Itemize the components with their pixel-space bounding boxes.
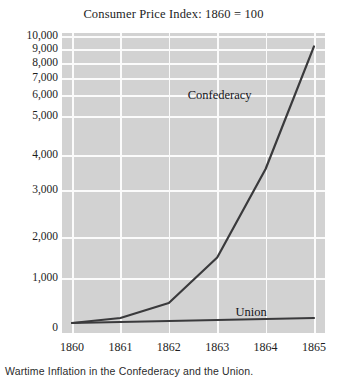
x-tick-label: 1865 (302, 341, 326, 353)
y-tick-label: 1,000 (32, 272, 58, 284)
series-annotations: ConfederacyUnion (62, 33, 325, 333)
y-tick-label: 4,000 (32, 149, 58, 161)
y-tick-label: 7,000 (32, 72, 58, 84)
figure-caption: Wartime Inflation in the Confederacy and… (5, 365, 253, 377)
y-tick-label: 8,000 (32, 57, 58, 69)
y-tick-label: 10,000 (26, 30, 58, 42)
plot-area: ConfederacyUnion (62, 33, 325, 333)
y-tick-label: 9,000 (32, 43, 58, 55)
x-tick-label: 1862 (157, 341, 181, 353)
y-tick-label: 5,000 (32, 110, 58, 122)
x-tick-label: 1864 (254, 341, 278, 353)
y-tick-label: 2,000 (32, 231, 58, 243)
series-label-union: Union (235, 305, 266, 318)
y-tick-label: 3,000 (32, 184, 58, 196)
y-tick-label: 6,000 (32, 89, 58, 101)
chart-figure: Consumer Price Index: 1860 = 100 01,0002… (0, 0, 347, 385)
chart-title: Consumer Price Index: 1860 = 100 (0, 7, 347, 22)
y-tick-label: 0 (52, 322, 58, 334)
x-tick-label: 1861 (108, 341, 132, 353)
x-axis: 186018611862186318641865 (62, 341, 325, 359)
x-tick-label: 1860 (60, 341, 84, 353)
x-tick-label: 1863 (205, 341, 229, 353)
series-label-confederacy: Confederacy (188, 89, 252, 102)
y-axis: 01,0002,0003,0004,0005,0006,0007,0008,00… (0, 33, 58, 333)
